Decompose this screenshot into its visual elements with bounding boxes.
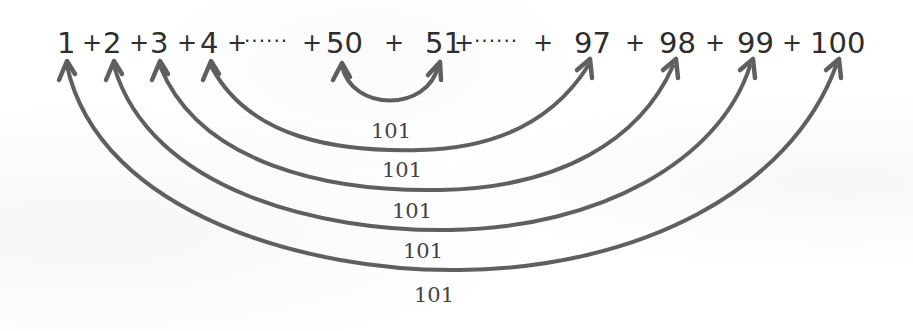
- term-98: 98: [659, 26, 696, 60]
- term-97: 97: [574, 26, 611, 60]
- pair-sum-label: 101: [382, 158, 422, 182]
- pair-sum-label: 101: [414, 283, 454, 307]
- ellipsis-right: ······: [474, 29, 518, 53]
- pair-sum-label: 101: [371, 119, 411, 143]
- pair-arrow-3-98: 101: [152, 59, 678, 223]
- term-50: 50: [326, 26, 363, 60]
- equation-row: 1 + 2 + 3 + 4 + ······ + 50 + 51 + ·····…: [57, 26, 865, 60]
- pair-sum-label: 101: [392, 199, 432, 223]
- plus-sign: +: [177, 29, 197, 57]
- diagram-svg: 1 + 2 + 3 + 4 + ······ + 50 + 51 + ·····…: [0, 0, 913, 331]
- plus-sign: +: [454, 29, 474, 57]
- term-2: 2: [103, 26, 121, 60]
- plus-sign: +: [533, 29, 553, 57]
- gauss-sum-diagram: 1 + 2 + 3 + 4 + ······ + 50 + 51 + ·····…: [0, 0, 913, 331]
- term-4: 4: [200, 26, 218, 60]
- plus-sign: +: [782, 29, 802, 57]
- pair-arrow-50-51: 101: [333, 62, 441, 143]
- plus-sign: +: [82, 29, 102, 57]
- term-99: 99: [737, 26, 774, 60]
- pair-sum-label: 101: [403, 239, 443, 263]
- curved-arrow-icon: [67, 66, 836, 270]
- term-3: 3: [150, 26, 168, 60]
- plus-sign: +: [705, 29, 725, 57]
- plus-sign: +: [129, 29, 149, 57]
- plus-sign: +: [384, 29, 404, 57]
- plus-sign: +: [625, 29, 645, 57]
- plus-sign: +: [302, 29, 322, 57]
- term-100: 100: [810, 26, 865, 60]
- ellipsis-left: ······: [244, 29, 288, 53]
- curved-arrow-icon: [342, 66, 438, 101]
- term-1: 1: [57, 26, 75, 60]
